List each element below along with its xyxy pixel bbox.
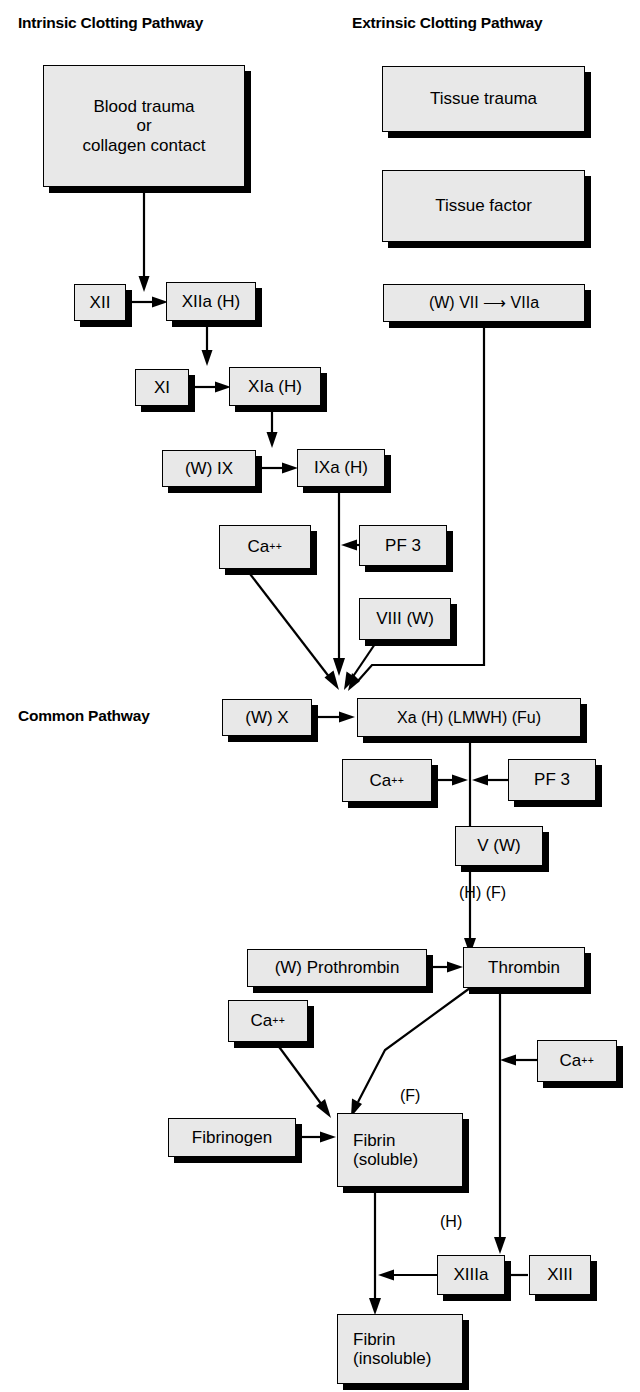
calcium-charge-2: ++	[391, 775, 404, 787]
box-prothrombin[interactable]: (W) Prothrombin	[247, 949, 427, 987]
box-thrombin[interactable]: Thrombin	[463, 947, 585, 988]
xiiia-annotation: (H)	[440, 1213, 462, 1231]
calcium-charge-3: ++	[272, 1015, 285, 1027]
box-factor-xiiia[interactable]: XIIIa	[437, 1255, 505, 1295]
box-factor-xia[interactable]: XIa (H)	[229, 367, 321, 406]
box-calcium-4[interactable]: Ca++	[537, 1040, 617, 1082]
box-factor-x[interactable]: (W) X	[222, 699, 312, 736]
box-tissue-factor[interactable]: Tissue factor	[382, 170, 585, 242]
box-fibrin-soluble[interactable]: Fibrin (soluble)	[337, 1113, 463, 1187]
calcium-label-1: Ca	[247, 537, 269, 556]
box-factor-vii[interactable]: (W) VII ⟶ VIIa	[383, 284, 585, 322]
box-factor-xiii[interactable]: XIII	[529, 1255, 591, 1295]
box-pf3-1[interactable]: PF 3	[359, 525, 447, 566]
box-fibrinogen[interactable]: Fibrinogen	[168, 1118, 296, 1157]
calcium-charge-4: ++	[581, 1055, 594, 1067]
box-factor-ix[interactable]: (W) IX	[162, 450, 256, 487]
box-calcium-2[interactable]: Ca++	[342, 759, 432, 802]
extrinsic-pathway-heading: Extrinsic Clotting Pathway	[352, 14, 542, 32]
calcium-label-4: Ca	[559, 1051, 581, 1070]
box-calcium-3[interactable]: Ca++	[228, 1000, 308, 1042]
clotting-cascade-diagram: Intrinsic Clotting Pathway Extrinsic Clo…	[0, 0, 640, 1392]
box-factor-xiia[interactable]: XIIa (H)	[166, 282, 256, 321]
box-factor-ixa[interactable]: IXa (H)	[297, 449, 385, 487]
box-blood-trauma[interactable]: Blood trauma or collagen contact	[43, 65, 245, 187]
calcium-label-3: Ca	[250, 1011, 272, 1030]
calcium-charge-1: ++	[269, 541, 282, 553]
box-factor-xii[interactable]: XII	[74, 284, 126, 321]
box-pf3-2[interactable]: PF 3	[508, 759, 596, 801]
thrombin-annotation: (H) (F)	[459, 884, 506, 902]
box-fibrin-insoluble[interactable]: Fibrin (insoluble)	[337, 1314, 463, 1384]
box-tissue-trauma[interactable]: Tissue trauma	[382, 66, 585, 132]
box-factor-xa[interactable]: Xa (H) (LMWH) (Fu)	[357, 698, 581, 737]
box-calcium-1[interactable]: Ca++	[219, 525, 311, 569]
common-pathway-heading: Common Pathway	[18, 707, 150, 725]
box-factor-viii[interactable]: VIII (W)	[359, 598, 451, 640]
box-factor-v[interactable]: V (W)	[455, 826, 543, 866]
intrinsic-pathway-heading: Intrinsic Clotting Pathway	[18, 14, 203, 32]
box-factor-xi[interactable]: XI	[135, 369, 189, 406]
fibrin-annotation: (F)	[400, 1087, 420, 1105]
calcium-label-2: Ca	[369, 771, 391, 790]
